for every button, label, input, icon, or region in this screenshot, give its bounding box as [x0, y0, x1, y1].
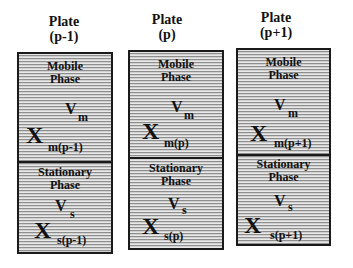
concentration-subscript: s(p) — [164, 229, 183, 244]
concentration-symbol: X — [244, 212, 261, 239]
label-line2: Phase — [238, 69, 329, 82]
concentration-symbol: X — [34, 217, 51, 244]
concentration-symbol: X — [142, 213, 159, 240]
stationary-phase-label: Stationary Phase — [238, 158, 329, 184]
label-line2: Phase — [130, 175, 222, 188]
concentration-symbol: X — [26, 122, 43, 149]
stationary-phase: Stationary Phase V s X s(p) — [130, 159, 222, 248]
label-line2: Phase — [19, 73, 111, 86]
stationary-phase-label: Stationary Phase — [19, 166, 111, 192]
concentration-subscript: s(p-1) — [57, 233, 86, 248]
plate-title-line1: Plate — [226, 10, 326, 25]
plate-title-p: Plate (p) — [117, 12, 217, 42]
volume-subscript: m — [184, 108, 194, 123]
concentration-subscript: m(p) — [164, 136, 189, 151]
concentration-symbol: X — [250, 120, 267, 147]
volume-symbol: V — [274, 192, 286, 210]
label-line2: Phase — [130, 71, 222, 84]
stationary-phase-label: Stationary Phase — [130, 162, 222, 188]
volume-symbol: V — [171, 98, 183, 116]
volume-subscript: s — [288, 200, 293, 215]
concentration-subscript: s(p+1) — [270, 228, 302, 243]
plate-title-p-plus-1: Plate (p+1) — [226, 10, 326, 40]
label-line2: Phase — [19, 179, 111, 192]
mobile-phase-label: Mobile Phase — [130, 58, 222, 84]
concentration-symbol: X — [142, 118, 159, 145]
stationary-phase: Stationary Phase V s X s(p-1) — [19, 163, 111, 252]
plate-p: Mobile Phase V m X m(p) Stationary Phase… — [128, 50, 224, 250]
mobile-phase: Mobile Phase V m X m(p+1) — [238, 50, 329, 154]
plate-title-line1: Plate — [14, 14, 114, 29]
mobile-phase: Mobile Phase V m X m(p) — [130, 52, 222, 157]
volume-symbol: V — [65, 100, 77, 118]
label-line2: Phase — [238, 171, 329, 184]
mobile-phase-label: Mobile Phase — [19, 60, 111, 86]
volume-subscript: s — [182, 203, 187, 218]
volume-symbol: V — [274, 96, 286, 114]
mobile-phase-label: Mobile Phase — [238, 56, 329, 82]
plate-p-plus-1: Mobile Phase V m X m(p+1) Stationary Pha… — [236, 48, 331, 246]
plate-title-line2: (p+1) — [226, 25, 326, 40]
plate-title-line2: (p) — [117, 27, 217, 42]
volume-subscript: m — [78, 110, 88, 125]
concentration-subscript: m(p+1) — [274, 136, 312, 151]
plate-title-line2: (p-1) — [14, 29, 114, 44]
volume-symbol: V — [55, 197, 67, 215]
concentration-subscript: m(p-1) — [48, 140, 83, 155]
volume-subscript: m — [288, 106, 298, 121]
plate-title-p-minus-1: Plate (p-1) — [14, 14, 114, 44]
plate-p-minus-1: Mobile Phase V m X m(p-1) Stationary Pha… — [17, 52, 113, 254]
volume-subscript: s — [70, 207, 75, 222]
plate-title-line1: Plate — [117, 12, 217, 27]
volume-symbol: V — [168, 195, 180, 213]
stationary-phase: Stationary Phase V s X s(p+1) — [238, 156, 329, 244]
mobile-phase: Mobile Phase V m X m(p-1) — [19, 54, 111, 161]
